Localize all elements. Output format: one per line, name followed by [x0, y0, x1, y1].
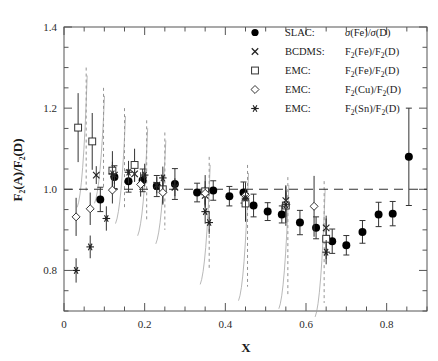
y-tick-label: 1.4 [43, 21, 57, 33]
cross-icon [252, 48, 258, 54]
open-square-icon [252, 67, 259, 74]
y-tick-label: 0.8 [43, 264, 57, 276]
y-tick-label: 1.0 [43, 183, 57, 195]
y-axis-title: F2(A)/F2(D) [10, 138, 27, 201]
data-point [375, 202, 383, 226]
data-point [389, 201, 397, 225]
svg-text:F2(A)/F2(D): F2(A)/F2(D) [10, 138, 27, 201]
legend-item: EMC:F2(Cu)/F2(D) [251, 84, 401, 98]
open-diamond-icon [251, 86, 259, 94]
data-point [86, 236, 94, 259]
data-point [342, 236, 350, 255]
figure-container: 0.81.01.21.4 00.20.40.60.8 F2(A)/F2(D) X… [0, 0, 438, 361]
legend-experiment-label: EMC: [285, 65, 311, 76]
svg-text:X: X [241, 340, 251, 355]
data-point [250, 194, 258, 217]
legend-item: SLAC:σ(Fe)/σ(D) [251, 27, 390, 39]
legend-item: EMC:F2(Fe)/F2(D) [252, 65, 400, 79]
legend-experiment-label: EMC: [285, 84, 311, 95]
x-tick-label: 0 [61, 318, 67, 330]
legend-ratio-label: F2(Fe)/F2(D) [345, 46, 400, 60]
legend-ratio-label: σ(Fe)/σ(D) [345, 27, 391, 39]
data-point [312, 217, 320, 239]
legend: SLAC:σ(Fe)/σ(D)BCDMS:F2(Fe)/F2(D)EMC:F2(… [251, 27, 401, 117]
legend-experiment-label: EMC: [285, 103, 311, 114]
x-axis-tick-labels: 00.20.40.60.8 [61, 318, 394, 330]
data-point [75, 93, 82, 162]
data-point [89, 113, 96, 170]
data-series [96, 108, 413, 255]
x-tick-label: 0.6 [299, 318, 313, 330]
filled-circle-icon [251, 29, 258, 36]
data-point [264, 203, 272, 221]
legend-item: BCDMS:F2(Fe)/F2(D) [252, 46, 400, 60]
epsilon-ratio-scatter-plot: 0.81.01.21.4 00.20.40.60.8 F2(A)/F2(D) X… [0, 0, 438, 361]
legend-ratio-label: F2(Fe)/F2(D) [345, 65, 400, 79]
data-series [72, 161, 330, 283]
data-point [86, 193, 94, 225]
legend-ratio-label: F2(Cu)/F2(D) [345, 84, 401, 98]
data-point [405, 108, 413, 205]
data-point [209, 181, 217, 200]
y-tick-label: 1.2 [43, 102, 57, 114]
x-tick-label: 0.2 [138, 318, 152, 330]
x-tick-label: 0.4 [218, 318, 232, 330]
legend-ratio-label: F2(Sn)/F2(D) [345, 103, 400, 117]
legend-experiment-label: SLAC: [285, 27, 315, 38]
legend-experiment-label: BCDMS: [285, 46, 325, 57]
data-point [137, 172, 145, 196]
data-point [322, 240, 330, 264]
data-point [193, 183, 201, 202]
data-point [72, 198, 80, 236]
x-tick-label: 0.8 [380, 318, 394, 330]
x-axis-title: X [241, 340, 251, 355]
legend-item: EMC:F2(Sn)/F2(D) [251, 103, 400, 117]
y-axis-tick-labels: 0.81.01.21.4 [43, 21, 57, 276]
data-point [103, 206, 111, 230]
data-points-layer [72, 93, 413, 282]
data-point [296, 210, 304, 234]
data-point [358, 221, 366, 244]
asterisk-icon [251, 105, 259, 112]
data-point [72, 258, 80, 282]
data-series [72, 172, 318, 237]
